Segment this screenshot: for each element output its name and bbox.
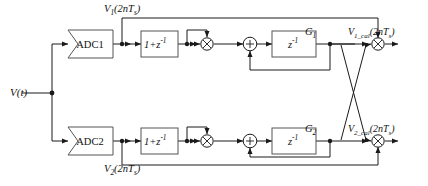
delay2-label: z-1 xyxy=(288,133,298,147)
v2-cal-output-label: V2_cal(2nTs) xyxy=(348,123,395,137)
node-fir2-tap xyxy=(185,139,189,143)
fir1-label: 1+z-1 xyxy=(144,36,167,50)
node-g1-tap xyxy=(328,42,332,46)
node-v1-tap xyxy=(120,42,124,46)
node-fir1-tap xyxy=(185,42,189,46)
delay1-label: z-1 xyxy=(288,36,298,50)
fir2-label: 1+z-1 xyxy=(144,133,167,147)
node-v2-tap xyxy=(120,139,124,143)
v2-signal-label: V2(2nTs) xyxy=(104,163,140,177)
g2-label: G2 xyxy=(305,123,316,137)
wire-input-to-adc1 xyxy=(52,44,68,93)
v1-cal-output-label: V1_cal(2nTs) xyxy=(348,26,395,40)
adc1-label: ADC1 xyxy=(76,39,103,50)
input-label: V(t) xyxy=(10,86,27,98)
wire-input-to-adc2 xyxy=(52,93,68,141)
diagram-canvas: ADC1 ADC2 V(t) V1(2nTs) V2(2nTs) 1+z-1 1… xyxy=(0,0,428,186)
node-input-split xyxy=(50,91,55,96)
v1-signal-label: V1(2nTs) xyxy=(104,3,140,17)
adc2-label: ADC2 xyxy=(76,136,103,147)
node-g2-tap xyxy=(328,139,332,143)
blocks-layer xyxy=(68,30,316,155)
g1-label: G1 xyxy=(305,26,316,40)
